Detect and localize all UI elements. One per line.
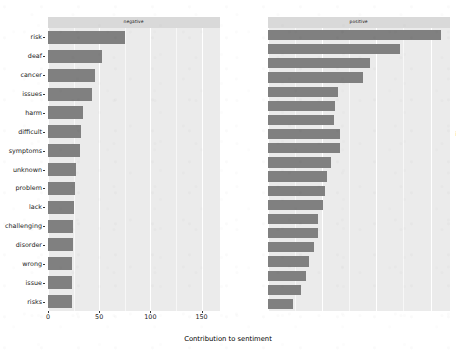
bar-row	[48, 201, 220, 214]
plot-panel-negative	[48, 28, 220, 311]
y-axis-tick-mark	[43, 188, 45, 189]
bar	[268, 30, 441, 40]
bar	[48, 125, 81, 138]
bar	[48, 295, 72, 308]
bar-row	[268, 115, 450, 125]
y-axis-labels-negative: riskdeafcancerissuesharmdifficultsymptom…	[0, 28, 45, 311]
bar-series-positive	[268, 28, 450, 311]
y-axis-tick-mark	[43, 302, 45, 303]
bar-row	[268, 72, 450, 82]
x-axis-tick-label: 50	[95, 314, 103, 320]
y-axis-tick-mark	[43, 75, 45, 76]
bar	[268, 101, 335, 111]
bar-row	[268, 186, 450, 196]
bar-row	[268, 271, 450, 281]
bar-row	[48, 106, 220, 119]
y-axis-tick-mark	[43, 283, 45, 284]
bar-row	[48, 31, 220, 44]
bar-row	[48, 69, 220, 82]
bar	[268, 44, 400, 54]
bar-row	[48, 50, 220, 63]
bar	[48, 257, 72, 270]
bar-row	[48, 220, 220, 233]
bar	[48, 163, 76, 176]
bar-row	[268, 299, 450, 309]
bar	[268, 200, 323, 210]
bar	[268, 87, 338, 97]
bar	[48, 69, 95, 82]
y-axis-tick-label: unknown	[13, 166, 42, 172]
bar	[48, 276, 72, 289]
bar-row	[48, 295, 220, 308]
y-axis-tick-label: issue	[26, 279, 42, 285]
y-axis-tick-label: wrong	[22, 261, 42, 267]
bar	[48, 220, 73, 233]
sentiment-contribution-figure: negative riskdeafcancerissuesharmdifficu…	[0, 0, 456, 354]
bar-row	[48, 88, 220, 101]
bar-row	[48, 182, 220, 195]
y-axis-tick-mark	[43, 113, 45, 114]
bar	[48, 144, 80, 157]
bar-row	[48, 144, 220, 157]
y-axis-tick-mark	[43, 37, 45, 38]
bar	[48, 238, 73, 251]
bar-row	[48, 276, 220, 289]
bar-series-negative	[48, 28, 220, 311]
y-axis-tick-mark	[43, 94, 45, 95]
bar-row	[268, 171, 450, 181]
bar	[268, 228, 318, 238]
facet-positive: positive patientimportantlikerightgoodwe…	[228, 0, 456, 332]
bar	[268, 271, 306, 281]
y-axis-tick-label: risk	[31, 34, 42, 40]
y-axis-tick-label: difficult	[18, 129, 42, 135]
bar	[48, 106, 83, 119]
bar-row	[268, 143, 450, 153]
bar-row	[268, 157, 450, 167]
y-axis-tick-label: risks	[27, 298, 42, 304]
bar	[268, 58, 370, 68]
bar	[268, 186, 325, 196]
bar	[268, 143, 340, 153]
bar-row	[268, 101, 450, 111]
facet-strip-label-negative: negative	[124, 20, 144, 24]
bar-row	[268, 30, 450, 40]
facet-strip-positive: positive	[268, 17, 450, 28]
bar	[268, 299, 293, 309]
y-axis-tick-mark	[43, 245, 45, 246]
y-axis-tick-mark	[43, 151, 45, 152]
bar-row	[268, 228, 450, 238]
bar	[48, 201, 74, 214]
bar	[48, 31, 125, 44]
bar	[48, 88, 92, 101]
y-axis-tick-mark	[43, 170, 45, 171]
bar	[268, 242, 314, 252]
bar-row	[48, 163, 220, 176]
y-axis-tick-label: disorder	[16, 242, 42, 248]
bar	[268, 171, 327, 181]
y-axis-tick-mark	[43, 226, 45, 227]
x-axis-negative: 050100150	[48, 311, 220, 325]
facet-container: negative riskdeafcancerissuesharmdifficu…	[0, 0, 456, 332]
bar-row	[48, 238, 220, 251]
bar-row	[48, 125, 220, 138]
bar-row	[268, 129, 450, 139]
y-axis-tick-label: challenging	[5, 223, 42, 229]
facet-negative: negative riskdeafcancerissuesharmdifficu…	[0, 0, 228, 332]
bar-row	[268, 256, 450, 266]
bar	[268, 157, 331, 167]
plot-panel-positive	[268, 28, 450, 311]
y-axis-tick-mark	[43, 264, 45, 265]
bar	[268, 115, 334, 125]
bar-row	[268, 58, 450, 68]
y-axis-tick-label: problem	[16, 185, 42, 191]
y-axis-tick-label: issues	[22, 91, 42, 97]
bar	[48, 50, 102, 63]
y-axis-tick-label: lack	[29, 204, 42, 210]
y-axis-tick-label: symptoms	[9, 147, 42, 153]
x-axis-tick-label: 0	[46, 314, 50, 320]
bar-row	[268, 242, 450, 252]
bar-row	[268, 87, 450, 97]
bar-row	[268, 200, 450, 210]
facet-strip-label-positive: positive	[350, 20, 368, 24]
facet-strip-negative: negative	[48, 17, 220, 28]
